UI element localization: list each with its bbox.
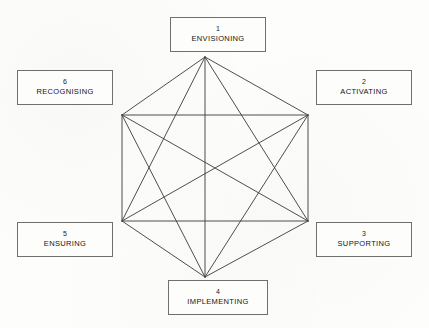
node-label-5: ENSURING (44, 239, 86, 248)
node-label-4: IMPLEMENTING (187, 297, 248, 306)
node-number-4: 4 (216, 288, 220, 297)
edge-v3-v4 (205, 221, 308, 277)
diagram-page: 1 ENVISIONING 2 ACTIVATING 3 SUPPORTING … (0, 0, 429, 328)
node-number-5: 5 (63, 230, 67, 239)
node-number-1: 1 (216, 25, 220, 34)
node-box-2-activating[interactable]: 2 ACTIVATING (316, 70, 412, 105)
edge-v1-v2 (205, 57, 308, 115)
node-box-4-implementing[interactable]: 4 IMPLEMENTING (168, 280, 268, 315)
node-label-6: RECOGNISING (36, 87, 93, 96)
node-number-6: 6 (63, 78, 67, 87)
node-number-2: 2 (362, 78, 366, 87)
node-box-6-recognising[interactable]: 6 RECOGNISING (17, 70, 113, 105)
edge-v4-v5 (122, 221, 205, 277)
node-box-1-envisioning[interactable]: 1 ENVISIONING (170, 17, 266, 52)
node-number-3: 3 (362, 230, 366, 239)
edge-layer (122, 57, 308, 277)
node-label-2: ACTIVATING (340, 87, 387, 96)
node-label-1: ENVISIONING (191, 34, 244, 43)
node-label-3: SUPPORTING (338, 239, 391, 248)
node-box-3-supporting[interactable]: 3 SUPPORTING (316, 222, 412, 257)
edge-v1-v6 (122, 57, 205, 115)
node-box-5-ensuring[interactable]: 5 ENSURING (17, 222, 113, 257)
